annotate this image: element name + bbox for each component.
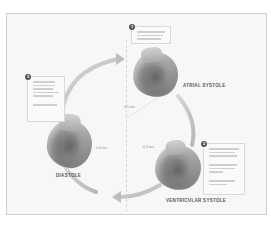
diastole-label: DIASTOLE: [56, 173, 81, 178]
step-number-badge: 3: [25, 74, 31, 80]
arrow-ventricular-to-diastole: [120, 185, 160, 197]
arrow-diastole-lower: [64, 165, 96, 192]
ventricular-systole-label: VENTRICULAR SYSTOLE: [166, 198, 226, 203]
arrow-atrial-to-ventricular: [178, 96, 193, 145]
step-number-badge: 2: [201, 141, 207, 147]
time-label-atrial: 0.1 sec: [124, 105, 135, 109]
time-label-diastole: 0.4 sec: [96, 146, 107, 150]
arrow-head-icon: [112, 191, 121, 203]
atrial-systole-label: ATRIAL SYSTOLE: [183, 83, 225, 88]
callout-ventricular-systole: 2: [203, 143, 245, 195]
arrow-head-icon: [116, 53, 125, 65]
time-label-ventricular: 0.3 sec: [143, 145, 154, 149]
callout-atrial-systole: 1: [131, 26, 171, 44]
arrow-diastole-to-atrial: [62, 59, 118, 115]
step-number-badge: 1: [129, 24, 135, 30]
callout-diastole: 3: [27, 76, 65, 122]
